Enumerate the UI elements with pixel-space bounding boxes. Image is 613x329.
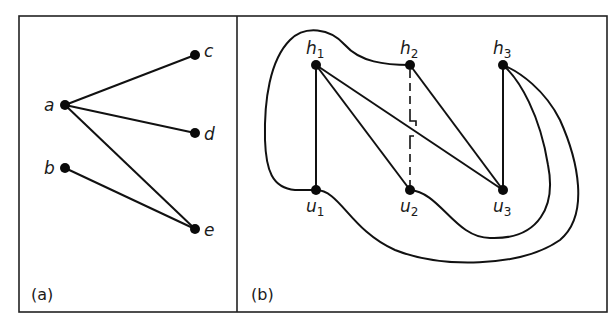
edge-a-c bbox=[65, 55, 195, 105]
label-d: d bbox=[204, 124, 215, 144]
node-e bbox=[190, 224, 200, 234]
edge-a-d bbox=[65, 105, 195, 133]
edge-u1-h3-curve bbox=[316, 65, 578, 262]
node-u1 bbox=[311, 185, 321, 195]
node-h3 bbox=[498, 60, 508, 70]
label-u3: u3 bbox=[493, 196, 511, 219]
panel-b: h1 h2 h3 u1 u2 u3 (b) bbox=[251, 30, 578, 304]
node-u3 bbox=[498, 185, 508, 195]
label-b: b bbox=[44, 158, 55, 178]
node-d bbox=[190, 128, 200, 138]
panel-b-label: (b) bbox=[251, 285, 274, 304]
node-c bbox=[190, 50, 200, 60]
label-u1: u1 bbox=[306, 196, 324, 219]
label-h2: h2 bbox=[400, 38, 418, 61]
label-u2: u2 bbox=[400, 196, 418, 219]
bipartite-graph-figure: a b c d e (a) h1 h2 bbox=[0, 0, 613, 329]
edge-u2-h3-curve bbox=[410, 65, 550, 238]
edge-h1-u2 bbox=[316, 65, 410, 190]
panel-a: a b c d e (a) bbox=[31, 41, 215, 304]
edge-h2-u1-curve bbox=[265, 30, 410, 190]
node-u2 bbox=[405, 185, 415, 195]
label-a: a bbox=[44, 95, 54, 115]
edge-b-e bbox=[65, 168, 195, 229]
node-h2 bbox=[405, 60, 415, 70]
label-h1: h1 bbox=[306, 38, 324, 61]
node-a bbox=[60, 100, 70, 110]
edge-a-e bbox=[65, 105, 195, 229]
label-e: e bbox=[204, 220, 214, 240]
edge-h2-u3 bbox=[410, 65, 503, 190]
panel-a-label: (a) bbox=[31, 285, 53, 304]
figure-frame bbox=[19, 16, 607, 312]
node-b bbox=[60, 163, 70, 173]
node-h1 bbox=[311, 60, 321, 70]
label-c: c bbox=[204, 41, 214, 61]
label-h3: h3 bbox=[493, 38, 511, 61]
